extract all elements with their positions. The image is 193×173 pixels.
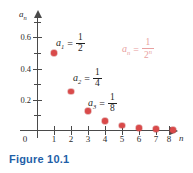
annotation-a2-equals: =: [83, 73, 91, 84]
formula-fraction: 1 2n: [142, 38, 154, 61]
y-tick-major-0.2: [33, 100, 42, 101]
annotation-a1-variable: a1: [56, 37, 64, 50]
figure-10-1: an n 0.6 0.4 0.2 0 1 2 3 4 5 6 7: [0, 0, 193, 173]
annotation-a2-fraction: 1 4: [93, 68, 102, 89]
annotation-a3-fraction: 1 8: [108, 93, 117, 114]
formula-numerator: 1: [144, 38, 153, 48]
data-point-n7: [153, 126, 159, 132]
data-point-n8: [170, 127, 176, 133]
annotation-a3-variable: a3: [88, 97, 96, 110]
annotation-a3-equals: =: [98, 98, 106, 109]
sequence-scatter-plot: an n 0.6 0.4 0.2 0 1 2 3 4 5 6 7: [0, 0, 193, 150]
x-tick-label-2: 2: [64, 134, 78, 144]
y-axis-arrow-icon: [34, 10, 42, 18]
data-point-n2: [68, 89, 74, 95]
y-tick-label-0.2: 0.2: [11, 95, 31, 105]
y-tick-label-0.4: 0.4: [11, 64, 31, 74]
x-tick-label-8: 8: [162, 134, 176, 144]
annotation-a3-numerator: 1: [108, 93, 117, 103]
x-tick-label-4: 4: [98, 134, 112, 144]
x-tick-label-7: 7: [149, 134, 163, 144]
annotation-a1-equals: =: [66, 38, 74, 49]
origin-label: 0: [19, 134, 31, 144]
annotation-a3-denominator: 8: [108, 103, 117, 114]
annotation-a1-numerator: 1: [76, 33, 85, 43]
y-tick-label-0.6: 0.6: [11, 32, 31, 42]
formula-equals: =: [132, 44, 140, 55]
y-tick-major-0.6: [33, 37, 42, 38]
sequence-formula: an = 1 2n: [122, 38, 154, 61]
x-tick-label-3: 3: [81, 134, 95, 144]
annotation-a2: a2 = 1 4: [73, 68, 102, 89]
y-tick-minor-0.3: [34, 84, 41, 85]
data-point-n6: [136, 125, 142, 131]
y-tick-minor-0.1: [34, 115, 41, 116]
annotation-a1: a1 = 1 2: [56, 33, 85, 54]
data-point-n5: [119, 123, 125, 129]
formula-variable: an: [122, 43, 130, 56]
annotation-a1-fraction: 1 2: [76, 33, 85, 54]
x-tick-label-1: 1: [47, 134, 61, 144]
annotation-a1-denominator: 2: [76, 43, 85, 54]
x-tick-label-6: 6: [132, 134, 146, 144]
annotation-a2-denominator: 4: [93, 78, 102, 89]
annotation-a2-numerator: 1: [93, 68, 102, 78]
y-tick-minor-0.5: [34, 53, 41, 54]
y-axis-line: [37, 16, 38, 138]
formula-denominator: 2n: [142, 48, 154, 61]
y-tick-major-0.4: [33, 69, 42, 70]
annotation-a2-variable: a2: [73, 72, 81, 85]
y-tick-labels: 0.6 0.4 0.2: [8, 0, 31, 150]
x-axis-label: n: [179, 133, 184, 143]
figure-caption: Figure 10.1: [9, 153, 69, 165]
x-axis-line: [20, 130, 172, 131]
x-tick-label-5: 5: [115, 134, 129, 144]
annotation-a3: a3 = 1 8: [88, 93, 117, 114]
data-point-n4: [102, 118, 108, 124]
y-tick-minor-0.7: [34, 22, 41, 23]
